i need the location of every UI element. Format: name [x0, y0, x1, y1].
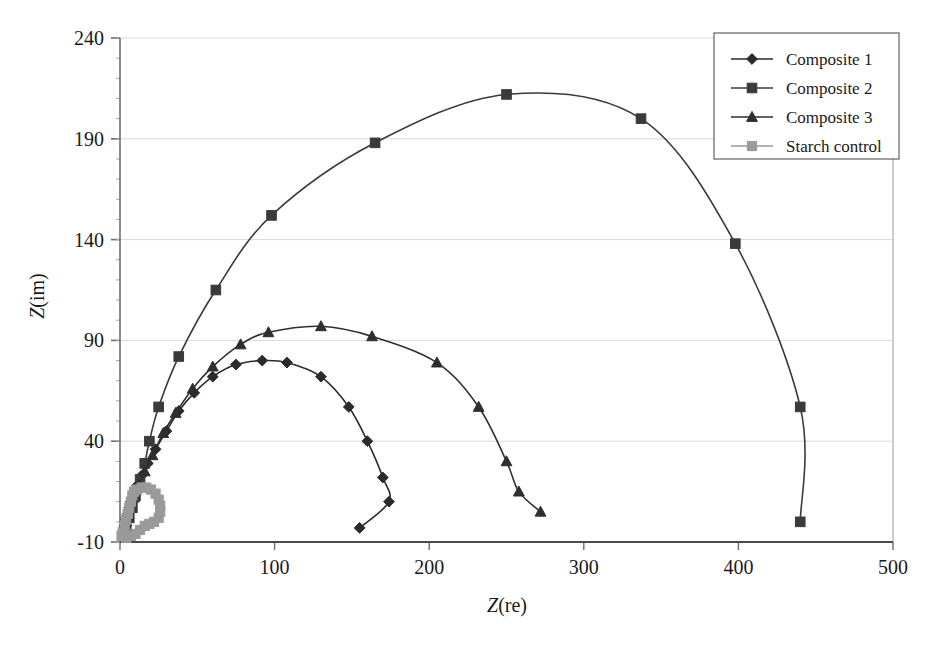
data-point-marker [370, 138, 380, 148]
legend-label: Composite 1 [786, 50, 872, 69]
svg-text:Z(im): Z(im) [26, 273, 49, 319]
x-tick-label: 100 [260, 556, 290, 578]
legend-label: Starch control [786, 137, 882, 156]
legend-swatch-marker [747, 83, 757, 93]
data-point-marker [502, 90, 512, 100]
y-axis-title: Z(im) [26, 273, 49, 319]
data-point-marker [174, 352, 184, 362]
y-tick-label: 90 [84, 329, 104, 351]
data-point-marker [122, 533, 131, 542]
data-point-marker [795, 517, 805, 527]
data-point-marker [211, 285, 221, 295]
data-point-marker [795, 402, 805, 412]
y-tick-label: -10 [77, 531, 104, 553]
data-point-marker [154, 402, 164, 412]
chart-legend: Composite 1Composite 2Composite 3Starch … [714, 33, 899, 159]
legend-label: Composite 2 [786, 79, 872, 98]
data-point-marker [731, 239, 741, 249]
chart-container: -104090140190240 0100200300400500 Z(im) … [0, 0, 944, 646]
y-tick-label: 190 [74, 128, 104, 150]
svg-text:Z(re): Z(re) [487, 594, 527, 617]
data-point-marker [267, 211, 277, 221]
x-axis-title-suffix: (re) [498, 594, 527, 617]
legend-label: Composite 3 [786, 108, 872, 127]
y-tick-label: 140 [74, 229, 104, 251]
y-axis-title-suffix: (im) [26, 273, 49, 307]
y-tick-label: 240 [74, 27, 104, 49]
impedance-nyquist-plot: -104090140190240 0100200300400500 Z(im) … [0, 0, 944, 646]
x-tick-label: 0 [115, 556, 125, 578]
legend-swatch-marker [747, 141, 756, 150]
data-point-marker [145, 436, 155, 446]
x-tick-label: 200 [414, 556, 444, 578]
x-tick-label: 300 [569, 556, 599, 578]
data-point-marker [636, 114, 646, 124]
x-tick-label: 400 [723, 556, 753, 578]
x-axis-title: Z(re) [487, 594, 527, 617]
x-tick-label: 500 [878, 556, 908, 578]
y-tick-label: 40 [84, 430, 104, 452]
